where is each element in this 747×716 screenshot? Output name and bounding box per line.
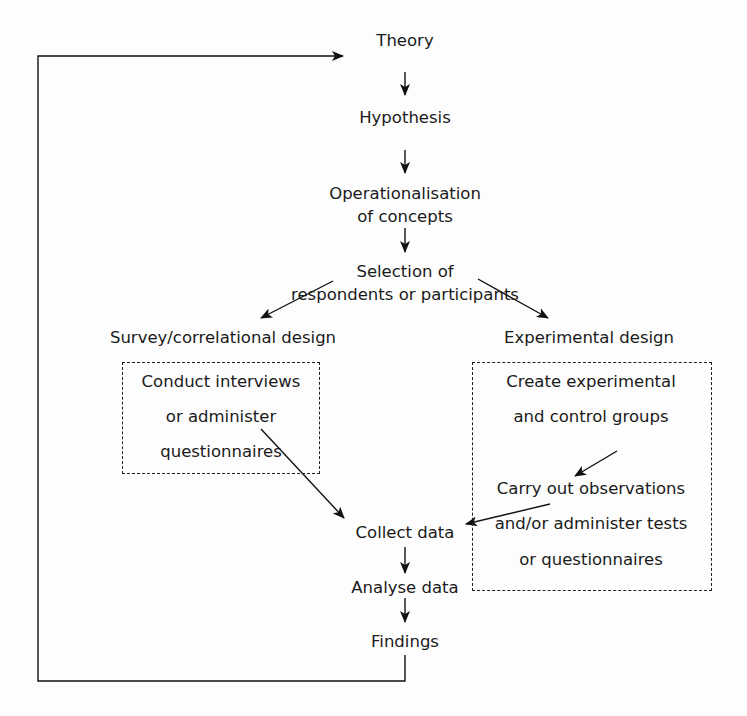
node-operationalisation-line2: of concepts xyxy=(357,205,453,228)
node-survey-design: Survey/correlational design xyxy=(110,326,336,349)
exp-box-line3: Carry out observations xyxy=(497,477,685,500)
node-findings: Findings xyxy=(371,630,439,653)
node-hypothesis: Hypothesis xyxy=(359,106,451,129)
exp-box-line1: Create experimental xyxy=(506,370,676,393)
node-analyse-data: Analyse data xyxy=(351,576,458,599)
survey-box-line3: questionnaires xyxy=(160,440,282,463)
node-collect-data: Collect data xyxy=(356,521,455,544)
exp-box-line5: or questionnaires xyxy=(519,548,663,571)
survey-box-line1: Conduct interviews xyxy=(142,370,301,393)
node-operationalisation-line1: Operationalisation xyxy=(329,182,481,205)
node-selection-line2: respondents or participants xyxy=(291,283,519,306)
node-selection-line1: Selection of xyxy=(356,260,453,283)
node-experimental-design: Experimental design xyxy=(504,326,674,349)
node-theory: Theory xyxy=(376,29,433,52)
survey-box-line2: or administer xyxy=(166,405,276,428)
exp-box-line2: and control groups xyxy=(513,405,668,428)
exp-box-line4: and/or administer tests xyxy=(495,512,688,535)
